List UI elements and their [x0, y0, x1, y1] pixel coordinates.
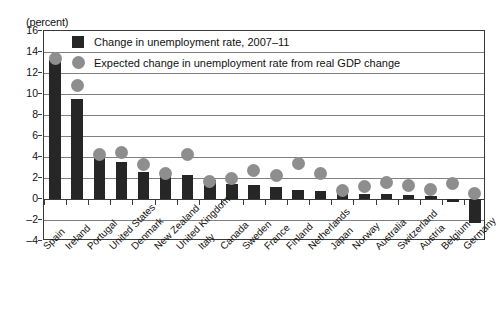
- dot-norway: [358, 180, 371, 193]
- unemployment-change-chart: (percent) 1614121086420–2–4 Change in un…: [0, 0, 499, 329]
- dot-united-kingdom: [181, 148, 194, 161]
- dot-australia: [380, 176, 393, 189]
- bar-sweden: [248, 185, 260, 199]
- x-axis-tick-mark: [155, 199, 156, 205]
- bar-australia: [381, 194, 393, 199]
- x-axis-tick-mark: [88, 199, 89, 205]
- y-axis-tick-mark: [38, 156, 42, 157]
- y-axis-tick-mark: [38, 30, 42, 31]
- x-axis-tick-mark: [464, 199, 465, 205]
- dot-switzerland: [402, 179, 415, 192]
- y-axis-tick-label: 14: [0, 46, 38, 56]
- y-axis-tick-mark: [38, 177, 42, 178]
- dot-spain: [49, 52, 62, 65]
- legend-item-dot: Expected change in unemployment rate fro…: [72, 52, 402, 73]
- y-axis-tick-label: 8: [0, 109, 38, 119]
- x-axis-tick-mark: [132, 199, 133, 205]
- y-axis-tick-label: 2: [0, 172, 38, 182]
- bar-switzerland: [403, 195, 415, 199]
- dot-ireland: [71, 79, 84, 92]
- dot-sweden: [247, 164, 260, 177]
- y-axis-tick-label: 12: [0, 67, 38, 77]
- y-axis-tick-mark: [38, 219, 42, 220]
- y-axis-tick-label: 0: [0, 193, 38, 203]
- y-axis-tick-label: –2: [0, 214, 38, 224]
- dot-france: [270, 169, 283, 182]
- x-axis-tick-mark: [398, 199, 399, 205]
- y-axis-tick-mark: [38, 240, 42, 241]
- bar-norway: [359, 194, 371, 199]
- dot-finland: [292, 157, 305, 170]
- bar-finland: [292, 190, 304, 199]
- x-axis-tick-mark: [442, 199, 443, 205]
- legend-item-bar: Change in unemployment rate, 2007–11: [72, 31, 402, 52]
- x-axis-category-labels: SpainIrelandPortugalUnited StatesDenmark…: [0, 242, 499, 329]
- y-axis-tick-mark: [38, 51, 42, 52]
- dot-italy: [203, 175, 216, 188]
- dot-belgium: [446, 177, 459, 190]
- bar-united-kingdom: [182, 175, 194, 199]
- x-axis-tick-mark: [199, 199, 200, 205]
- x-axis-tick-mark: [177, 199, 178, 205]
- x-axis-tick-mark: [309, 199, 310, 205]
- y-axis-tick-mark: [38, 135, 42, 136]
- y-axis-tick-label: 10: [0, 88, 38, 98]
- x-axis-tick-mark: [44, 199, 45, 205]
- y-axis-tick-mark: [38, 72, 42, 73]
- x-axis-tick-mark: [265, 199, 266, 205]
- x-axis-tick-mark: [243, 199, 244, 205]
- bar-portugal: [94, 158, 106, 199]
- bar-united-states: [116, 162, 128, 199]
- dot-denmark: [137, 158, 150, 171]
- x-axis-tick-mark: [110, 199, 111, 205]
- x-axis-tick-mark: [331, 199, 332, 205]
- x-axis-tick-mark: [376, 199, 377, 205]
- legend-label-dot: Expected change in unemployment rate fro…: [94, 57, 400, 69]
- square-marker-icon: [72, 36, 84, 48]
- circle-marker-icon: [72, 56, 85, 69]
- dot-canada: [225, 172, 238, 185]
- bar-germany: [469, 199, 481, 223]
- dot-austria: [424, 183, 437, 196]
- y-axis-tick-mark: [38, 198, 42, 199]
- y-axis-tick-label: 16: [0, 25, 38, 35]
- y-axis-tick-label: 4: [0, 151, 38, 161]
- bar-belgium: [447, 199, 459, 202]
- bar-austria: [425, 196, 437, 199]
- chart-legend: Change in unemployment rate, 2007–11 Exp…: [72, 31, 402, 73]
- y-axis-tick-labels: 1614121086420–2–4: [0, 30, 40, 240]
- legend-label-bar: Change in unemployment rate, 2007–11: [94, 36, 290, 48]
- x-axis-tick-mark: [420, 199, 421, 205]
- y-axis-tick-mark: [38, 114, 42, 115]
- x-axis-tick-mark: [353, 199, 354, 205]
- bar-france: [270, 187, 282, 199]
- y-axis-tick-label: 6: [0, 130, 38, 140]
- dot-japan: [336, 184, 349, 197]
- x-axis-tick-mark: [287, 199, 288, 205]
- bar-denmark: [138, 172, 150, 199]
- bar-spain: [49, 60, 61, 199]
- dot-united-states: [115, 146, 128, 159]
- x-axis-tick-mark: [66, 199, 67, 205]
- y-axis-tick-mark: [38, 93, 42, 94]
- bar-netherlands: [315, 191, 327, 199]
- bar-ireland: [71, 99, 83, 199]
- dot-netherlands: [314, 167, 327, 180]
